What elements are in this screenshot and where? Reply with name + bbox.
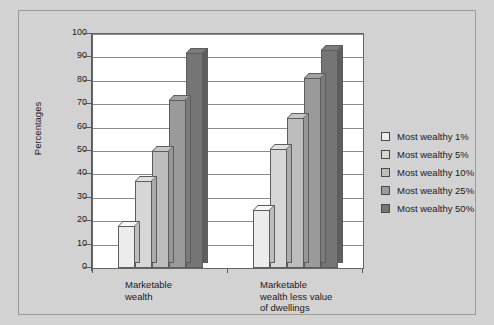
legend-item: Most wealthy 25% [381,181,491,199]
legend-swatch-icon [381,150,390,159]
bar-side [135,221,140,263]
bar-side [287,144,292,263]
legend-item: Most wealthy 1% [381,127,491,145]
legend-item: Most wealthy 10% [381,163,491,181]
plot-area [92,33,364,269]
legend-swatch-icon [381,132,390,141]
bar-side [152,176,157,263]
y-axis-tick-label: 0 [57,262,87,271]
legend-item: Most wealthy 5% [381,145,491,163]
y-axis-tick [84,80,92,81]
x-axis-category-line: Marketable [260,279,370,291]
legend-label: Most wealthy 5% [397,149,469,160]
legend-label: Most wealthy 50% [397,203,474,214]
y-axis-tick-label: 80 [57,75,87,84]
bar [118,226,135,268]
bar-side [203,48,208,263]
y-axis-tick-label: 100 [57,28,87,37]
legend-label: Most wealthy 25% [397,185,474,196]
bar-side [321,73,326,263]
legend-label: Most wealthy 10% [397,167,474,178]
y-axis-tick-label: 70 [57,98,87,107]
bar-side [304,113,309,263]
bar-side [338,45,343,263]
legend-label: Most wealthy 1% [397,131,469,142]
y-axis-tick-label: 30 [57,192,87,201]
y-axis-tick-label: 40 [57,168,87,177]
gridline [93,34,363,35]
y-axis-tick [84,197,92,198]
y-axis-tick [84,220,92,221]
y-axis-tick [84,244,92,245]
y-axis-tick [84,33,92,34]
x-axis-tick [92,269,93,273]
bar-side [169,146,174,263]
x-axis-category-label: Marketablewealth less valueof dwellings [260,279,370,314]
y-axis-tick [84,127,92,128]
legend-swatch-icon [381,168,390,177]
bar-side [186,95,191,263]
x-axis-tick [227,269,228,273]
legend-item: Most wealthy 50% [381,199,491,217]
legend-swatch-icon [381,186,390,195]
y-axis-tick [84,267,92,268]
bar-face [118,226,135,268]
x-axis-category-line: wealth [125,291,235,303]
x-axis [92,269,364,272]
y-axis-tick [84,103,92,104]
bar [253,210,270,269]
y-axis-tick-label: 10 [57,239,87,248]
y-axis-tick [84,173,92,174]
chart-frame: Percentages 0102030405060708090100 Most … [18,10,476,315]
legend-swatch-icon [381,204,390,213]
chart-legend: Most wealthy 1%Most wealthy 5%Most wealt… [381,127,491,217]
x-axis-category-line: Marketable [125,279,235,291]
bar-side [270,205,275,264]
y-axis-tick-label: 50 [57,145,87,154]
bar-face [253,210,270,269]
x-axis-category-line: of dwellings [260,302,370,314]
chart-figure: Percentages 0102030405060708090100 Most … [0,0,494,325]
y-axis-tick [84,56,92,57]
x-axis-tick [362,269,363,273]
y-axis-tick [84,150,92,151]
y-axis-title: Percentages [32,79,43,179]
y-axis-tick-label: 20 [57,215,87,224]
x-axis-category-label: Marketablewealth [125,279,235,302]
y-axis-tick-labels: 0102030405060708090100 [51,33,87,271]
y-axis-tick-label: 90 [57,51,87,60]
x-axis-category-line: wealth less value [260,291,370,303]
y-axis-tick-label: 60 [57,122,87,131]
